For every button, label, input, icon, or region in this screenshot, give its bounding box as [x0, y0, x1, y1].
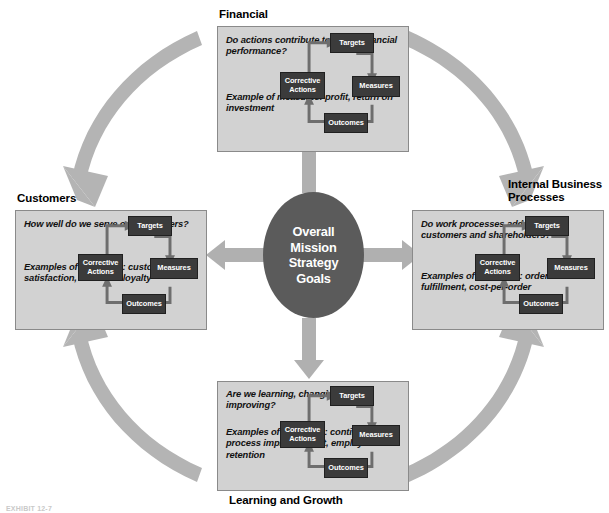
node-outcomes-internal[interactable]: Outcomes: [519, 294, 563, 314]
panel-internal-business-processes[interactable]: Do work processes add value for customer…: [412, 210, 604, 330]
arc-learning-to-internal: [404, 306, 544, 482]
node-outcomes-learning[interactable]: Outcomes: [324, 458, 368, 478]
panel-title-financial: Financial: [219, 8, 268, 21]
node-outcomes-financial[interactable]: Outcomes: [324, 113, 368, 133]
node-targets-customers[interactable]: Targets: [128, 216, 172, 236]
node-measures-internal[interactable]: Measures: [547, 258, 595, 279]
arc-learning-to-customers: [63, 306, 202, 482]
node-corrective-actions-internal[interactable]: Corrective Actions: [475, 254, 520, 281]
panel-learning-and-growth[interactable]: Are we learning, changing, and improving…: [217, 381, 409, 491]
center-mission-ellipse[interactable]: Overall Mission Strategy Goals: [263, 192, 364, 318]
figure-caption: EXHIBIT 12-7: [6, 505, 52, 512]
arc-financial-to-customers: [63, 31, 202, 207]
panel-financial[interactable]: Do actions contribute to better financia…: [217, 26, 409, 152]
node-corrective-actions-financial[interactable]: Corrective Actions: [280, 72, 325, 99]
center-mission-label: Overall Mission Strategy Goals: [289, 224, 339, 286]
panel-title-learning: Learning and Growth: [229, 494, 343, 507]
node-corrective-actions-customers[interactable]: Corrective Actions: [78, 254, 123, 281]
node-targets-learning[interactable]: Targets: [330, 386, 374, 406]
spoke-center-to-learning: [294, 318, 324, 379]
spoke-center-to-customers: [206, 240, 266, 270]
panel-customers[interactable]: How well do we serve our customers? Exam…: [15, 210, 207, 330]
node-targets-internal[interactable]: Targets: [525, 216, 569, 236]
node-measures-learning[interactable]: Measures: [352, 425, 400, 446]
node-measures-customers[interactable]: Measures: [150, 258, 198, 279]
diagram-canvas: .arcband { fill: #b4b4b4; } .spoke { fil…: [0, 0, 609, 513]
panel-title-customers: Customers: [17, 192, 76, 205]
panel-title-internal: Internal Business Processes: [508, 178, 602, 204]
node-corrective-actions-learning[interactable]: Corrective Actions: [280, 421, 325, 448]
node-outcomes-customers[interactable]: Outcomes: [122, 294, 166, 314]
node-targets-financial[interactable]: Targets: [330, 33, 374, 53]
node-measures-financial[interactable]: Measures: [352, 76, 400, 97]
